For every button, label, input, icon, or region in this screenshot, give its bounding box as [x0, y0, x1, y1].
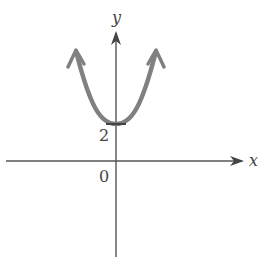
plot-canvas: y x 2 0 — [0, 0, 259, 259]
origin-label: 0 — [99, 167, 109, 186]
y-axis-label: y — [111, 8, 122, 27]
x-axis-label: x — [249, 151, 258, 170]
y-tick-label-2: 2 — [99, 126, 109, 145]
parabola-graph: y x 2 0 — [0, 0, 259, 259]
